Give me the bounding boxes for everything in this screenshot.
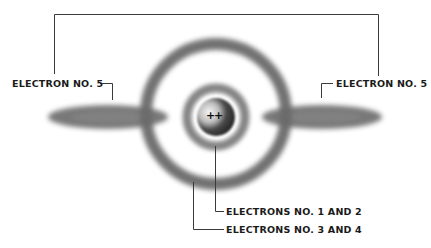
- nucleus-charge-marks: +: [214, 110, 223, 121]
- atom-diagram: + + ELECTRON NO. 5 ELECTRON NO. 5 ELECTR…: [0, 0, 431, 248]
- label-left-electron-5: ELECTRON NO. 5: [12, 79, 103, 89]
- diagram-canvas: [0, 0, 431, 248]
- leader-right-electron-5: [322, 84, 334, 99]
- label-inner-shell: ELECTRONS NO. 1 AND 2: [226, 207, 362, 217]
- label-outer-shell: ELECTRONS NO. 3 AND 4: [226, 225, 362, 235]
- label-right-electron-5: ELECTRON NO. 5: [336, 79, 427, 89]
